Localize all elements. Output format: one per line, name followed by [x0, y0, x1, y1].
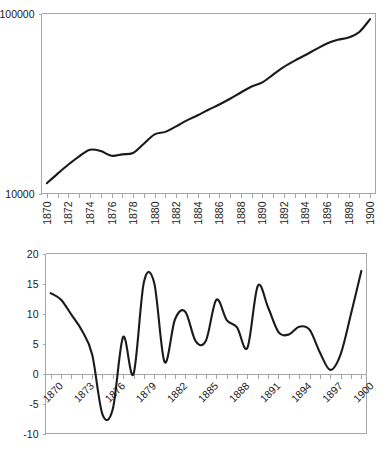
top-chart-y-tick-label: 100000 [0, 8, 35, 20]
bottom-chart-y-tick-label: 20 [27, 248, 39, 260]
top-chart-x-tick-label: 1870 [41, 201, 53, 225]
bottom-chart-y-tick-label: -10 [23, 428, 38, 440]
top-chart-x-tick-label: 1878 [127, 201, 139, 225]
top-chart-x-tick-label: 1900 [364, 201, 376, 225]
top-chart-x-tick-label: 1896 [321, 201, 333, 225]
bottom-chart-y-tick-label: 5 [33, 338, 39, 350]
top-chart-x-tick-label: 1890 [256, 201, 268, 225]
bottom-chart-svg: 20151050-5-10 18701873187618791882188518… [0, 230, 389, 457]
bottom-chart-y-tick-label: 15 [27, 278, 39, 290]
top-chart-panel: 10000010000 1870187218741876187818801882… [0, 0, 389, 230]
top-chart-x-tick-label: 1874 [84, 201, 96, 225]
bottom-chart-background [0, 230, 389, 457]
top-chart-x-tick-label: 1898 [343, 201, 355, 225]
top-chart-x-tick-label: 1872 [62, 201, 74, 225]
top-chart-x-tick-label: 1880 [149, 201, 161, 225]
top-chart-x-tick-label: 1876 [106, 201, 118, 225]
bottom-chart-y-tick-label: -5 [29, 398, 38, 410]
top-chart-x-tick-label: 1892 [278, 201, 290, 225]
top-chart-x-tick-label: 1894 [299, 201, 311, 225]
bottom-chart-y-tick-label: 0 [33, 368, 39, 380]
dual-line-chart-figure: 10000010000 1870187218741876187818801882… [0, 0, 389, 457]
bottom-chart-y-tick-label: 10 [27, 308, 39, 320]
top-chart-x-tick-label: 1888 [235, 201, 247, 225]
top-chart-x-tick-label: 1882 [170, 201, 182, 225]
top-chart-x-tick-label: 1884 [192, 201, 204, 225]
top-chart-svg: 10000010000 1870187218741876187818801882… [0, 0, 389, 230]
bottom-chart-panel: 20151050-5-10 18701873187618791882188518… [0, 230, 389, 457]
top-chart-y-tick-label: 10000 [5, 188, 34, 200]
top-chart-x-tick-label: 1886 [213, 201, 225, 225]
